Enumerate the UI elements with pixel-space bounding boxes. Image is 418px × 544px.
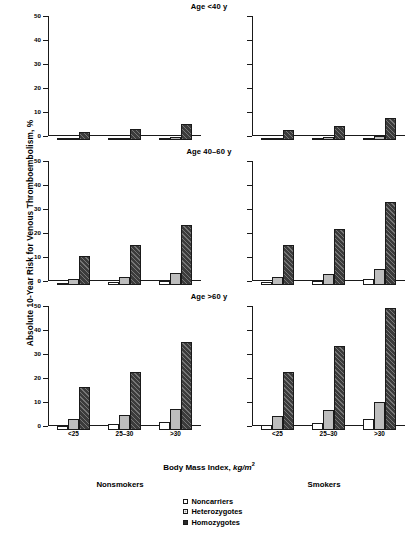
bar-heterozygotes [374,269,385,285]
bar-group-2530 [303,310,354,430]
y-tick-label: 0 [38,277,41,284]
bar-group-30 [150,20,201,140]
y-tick-label: 0 [38,422,41,429]
bar-heterozygotes [170,273,181,285]
bar-group-30 [354,165,405,285]
y-tick-label: 20 [34,374,41,381]
y-tick-label: 10 [34,398,41,405]
panel-title-age-lt40: Age <40 y [0,2,418,11]
bar-noncarriers [108,138,119,140]
bar-heterozygotes [272,138,283,140]
y-tick-label: 20 [34,84,41,91]
bar-group-25 [252,310,303,430]
bar-noncarriers [312,281,323,285]
x-axis-title: Body Mass Index, kg/m2 [0,461,418,472]
y-tick [247,306,252,307]
panel-age-40-60-nonsmokers: 01020304050 [36,161,201,286]
y-tick-label: 30 [34,350,41,357]
bar-heterozygotes [68,279,79,285]
x-axis-title-units: kg/m [233,463,252,472]
x-tick-label: 25–30 [116,430,134,437]
figure-root: Absolute 10-Year Risk for Venous Thrombo… [0,0,418,544]
legend-item-homozygotes: Homozygotes [183,517,242,528]
y-tick: 50 [43,16,48,17]
bar-homozygotes [334,229,345,285]
y-tick-label: 10 [34,108,41,115]
bar-heterozygotes [323,410,334,430]
legend-item-heterozygotes: Heterozygotes [183,507,242,518]
bar-homozygotes [181,225,192,285]
bar-homozygotes [130,372,141,430]
y-tick-label: 50 [34,12,41,19]
bar-homozygotes [385,308,396,430]
bar-homozygotes [334,346,345,430]
y-tick: 50 [43,161,48,162]
bar-homozygotes [283,245,294,285]
x-tick-label: >30 [170,430,181,437]
panel-row-age-gt60: Age >60 y01020304050<2525–30>30<2525–30>… [0,290,418,435]
y-tick-label: 10 [34,253,41,260]
bar-heterozygotes [119,415,130,430]
y-tick: 50 [43,306,48,307]
panel-age-40-60-smokers [240,161,405,286]
bar-homozygotes [79,132,90,140]
column-label-nonsmokers: Nonsmokers [96,480,143,489]
panel-title-age-gt60: Age >60 y [0,292,418,301]
bar-noncarriers [261,282,272,285]
bar-noncarriers [261,138,272,140]
bar-group-25 [252,20,303,140]
bar-homozygotes [283,130,294,140]
y-tick-label: 40 [34,326,41,333]
bar-homozygotes [385,118,396,140]
bar-heterozygotes [170,409,181,430]
bar-homozygotes [283,372,294,430]
bar-noncarriers [312,423,323,430]
legend-item-noncarriers: Noncarriers [183,496,242,507]
bar-noncarriers [57,138,68,140]
bar-homozygotes [130,245,141,285]
bar-noncarriers [312,138,323,140]
x-axis-title-main: Body Mass Index, [163,463,233,472]
bar-group-2530 [99,20,150,140]
bar-noncarriers [363,138,374,140]
bar-heterozygotes [68,138,79,140]
y-tick-label: 0 [38,132,41,139]
x-tick-label: <25 [68,430,79,437]
bar-group-30 [150,310,201,430]
bar-homozygotes [181,342,192,430]
bar-group-2530 [99,165,150,285]
bar-group-25 [48,310,99,430]
y-tick-label: 30 [34,60,41,67]
bar-noncarriers [159,422,170,430]
bar-heterozygotes [119,138,130,140]
bar-homozygotes [385,202,396,285]
bar-group-25 [252,165,303,285]
bar-group-25 [48,20,99,140]
bar-group-2530 [303,165,354,285]
y-tick [247,161,252,162]
bar-noncarriers [363,419,374,430]
hatched-square-icon [183,520,188,525]
panel-row-age-40-60: Age 40–60 y01020304050 [0,145,418,290]
panel-age-lt40-nonsmokers: 01020304050 [36,16,201,141]
panel-age-gt60-nonsmokers: 01020304050<2525–30>30 [36,306,201,431]
bar-heterozygotes [374,136,385,140]
x-tick-labels: <2525–30>30 [48,430,201,442]
x-axis-title-exponent: 2 [252,461,255,467]
bar-noncarriers [159,281,170,285]
y-tick-label: 30 [34,205,41,212]
grey-square-icon [183,509,188,514]
y-tick-label: 40 [34,181,41,188]
bar-heterozygotes [170,137,181,140]
bar-homozygotes [334,126,345,140]
y-tick-label: 50 [34,302,41,309]
bar-group-2530 [99,310,150,430]
legend-label-heterozygotes: Heterozygotes [192,507,243,516]
bar-noncarriers [57,283,68,285]
x-tick-label: 25–30 [320,430,338,437]
x-tick-labels: <2525–30>30 [252,430,405,442]
bar-homozygotes [79,256,90,285]
bar-heterozygotes [272,416,283,430]
bar-homozygotes [79,387,90,430]
bar-heterozygotes [323,137,334,140]
